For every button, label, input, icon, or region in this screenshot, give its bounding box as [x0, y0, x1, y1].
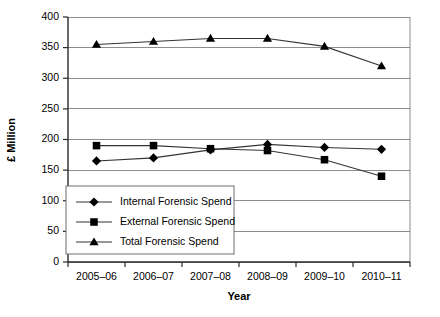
y-tick-label-400: 400	[41, 10, 59, 22]
data-point-1-2	[207, 145, 215, 153]
legend-label-1: External Forensic Spend	[120, 215, 235, 227]
y-axis-ticks-group: 050100150200250300350400	[41, 10, 68, 267]
y-tick-label-0: 0	[53, 255, 59, 267]
data-point-1-1	[150, 142, 158, 150]
data-series-group	[92, 34, 386, 180]
legend-marker-1	[90, 218, 98, 226]
x-tick-label-2: 2007–08	[190, 270, 231, 282]
x-tick-label-5: 2010–11	[361, 270, 401, 282]
legend-label-0: Internal Forensic Spend	[120, 195, 232, 207]
y-axis-title: £ Million	[5, 118, 17, 162]
x-tick-label-3: 2008–09	[247, 270, 288, 282]
y-tick-label-100: 100	[41, 194, 59, 206]
series-2	[92, 34, 386, 69]
series-line-2	[97, 38, 382, 66]
data-point-1-3	[264, 147, 272, 155]
data-point-0-5	[377, 145, 386, 154]
chart-legend: Internal Forensic SpendExternal Forensic…	[66, 186, 235, 254]
y-tick-label-350: 350	[41, 40, 59, 52]
x-tick-label-1: 2006–07	[133, 270, 174, 282]
data-point-1-5	[378, 172, 386, 180]
data-point-2-2	[206, 34, 215, 42]
x-tick-label-0: 2005–06	[76, 270, 117, 282]
series-line-1	[97, 146, 382, 177]
x-axis-ticks-group: 2005–062006–072007–082008–092009–102010–…	[68, 262, 410, 282]
legend-label-2: Total Forensic Spend	[120, 235, 219, 247]
data-point-0-0	[92, 156, 101, 165]
data-point-1-0	[93, 142, 101, 150]
y-tick-label-300: 300	[41, 71, 59, 83]
chart-canvas: 050100150200250300350400 2005–062006–072…	[0, 0, 440, 317]
x-axis-title: Year	[227, 290, 251, 302]
y-tick-label-250: 250	[41, 102, 59, 114]
forensic-spend-line-chart: 050100150200250300350400 2005–062006–072…	[0, 0, 440, 317]
y-tick-label-150: 150	[41, 163, 59, 175]
series-0	[92, 140, 386, 166]
data-point-2-3	[263, 34, 272, 42]
data-point-0-4	[320, 143, 329, 152]
y-tick-label-200: 200	[41, 132, 59, 144]
series-line-0	[97, 144, 382, 161]
data-point-0-1	[149, 153, 158, 162]
data-point-1-4	[321, 156, 329, 164]
y-tick-label-50: 50	[47, 224, 59, 236]
x-tick-label-4: 2009–10	[304, 270, 345, 282]
